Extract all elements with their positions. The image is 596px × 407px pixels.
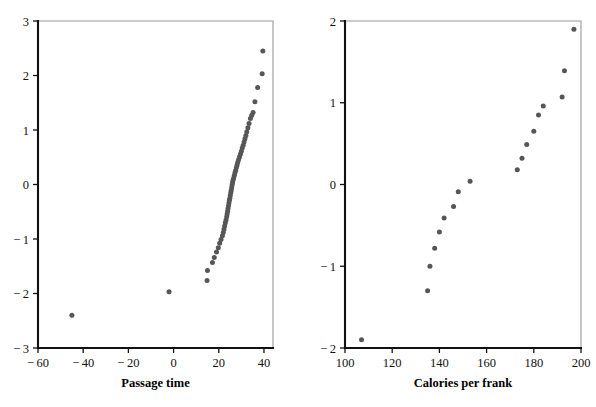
calories-per-frank-data-point [531,129,536,134]
calories-per-frank-axis-lines [345,21,581,348]
calories-per-frank-data-point [432,246,437,251]
passage-time-data-point [260,71,265,76]
calories-per-frank-ytick-label: 0 [330,178,336,192]
calories-per-frank-data-point [562,68,567,73]
calories-per-frank-data-point [442,216,447,221]
calories-per-frank-data-point [560,95,565,100]
passage-time-xtick-label: − 60 [27,356,49,370]
calories-per-frank-ytick-label: − 2 [320,342,336,356]
passage-time-ytick-label: 3 [23,15,29,29]
calories-per-frank-data-points [359,27,576,343]
passage-time-ytick-label: − 2 [13,287,29,301]
calories-per-frank-data-point [427,264,432,269]
passage-time-data-point [252,99,257,104]
passage-time-data-point [167,289,172,294]
passage-time-ytick-label: 2 [23,69,29,83]
passage-time-xtick-label: 20 [213,356,226,370]
passage-time-data-point [247,121,252,126]
passage-time-data-point [251,110,256,115]
calories-per-frank-plot-frame [345,21,581,348]
calories-per-frank-xtick-label: 200 [572,356,591,370]
passage-time-data-point [205,268,210,273]
calories-per-frank-data-point [524,142,529,147]
calories-per-frank-xtick-label: 140 [430,356,449,370]
calories-per-frank-data-point [520,156,525,161]
passage-time-data-point [69,313,74,318]
calories-per-frank-data-point [359,337,364,342]
calories-per-frank-ytick-label: − 1 [320,260,336,274]
calories-per-frank-xtick-label: 120 [383,356,402,370]
passage-time-ytick-label: 1 [23,124,29,138]
passage-time-data-points [69,48,265,317]
passage-time-data-point [212,255,217,260]
calories-per-frank-ytick-label: 2 [330,15,336,29]
calories-per-frank-data-point [536,113,541,118]
passage-time-ytick-label: − 1 [13,233,29,247]
passage-time-plot-frame [38,21,273,348]
calories-per-frank-data-point [425,288,430,293]
calories-per-frank-xtick-label: 160 [477,356,496,370]
normal-quantile-plot-figure: − 3− 2− 10123− 60− 40− 2002040Passage ti… [0,0,596,407]
passage-time-xtick-label: 40 [258,356,271,370]
calories-per-frank-data-point [456,189,461,194]
chart-panel-passage-time: − 3− 2− 10123− 60− 40− 2002040Passage ti… [0,0,300,407]
calories-per-frank-ytick-label: 1 [330,96,336,110]
chart-panel-calories-per-frank: − 2− 1012100120140160180200Calories per … [296,0,596,407]
calories-per-frank-xtick-label: 100 [336,356,355,370]
calories-per-frank-data-point [571,27,576,32]
calories-per-frank-data-point [451,204,456,209]
passage-time-xtick-label: − 40 [72,356,94,370]
calories-per-frank-axis-title: Calories per frank [414,376,512,390]
calories-per-frank-xtick-label: 180 [524,356,543,370]
passage-time-ytick-label: 0 [23,178,29,192]
passage-time-xtick-label: 0 [170,356,176,370]
passage-time-data-point [260,48,265,53]
passage-time-axis-lines [38,21,273,348]
passage-time-data-point [205,278,210,283]
calories-per-frank-data-point [541,104,546,109]
calories-per-frank-data-point [468,179,473,184]
passage-time-data-point [216,245,221,250]
passage-time-ytick-label: − 3 [13,342,29,356]
passage-time-scatter-svg: − 3− 2− 10123− 60− 40− 2002040Passage ti… [0,0,300,407]
passage-time-data-point [255,85,260,90]
calories-per-frank-data-point [437,229,442,234]
passage-time-data-point [245,125,250,130]
calories-per-frank-data-point [515,167,520,172]
calories-per-frank-scatter-svg: − 2− 1012100120140160180200Calories per … [296,0,596,407]
passage-time-xtick-label: − 20 [117,356,139,370]
passage-time-data-point [210,260,215,265]
passage-time-data-point [214,250,219,255]
passage-time-axis-title: Passage time [121,376,190,390]
